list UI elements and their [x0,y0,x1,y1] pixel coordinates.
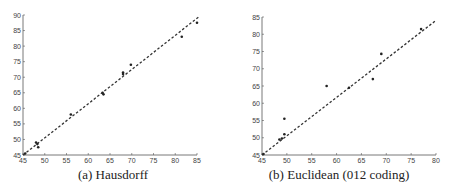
y-tick-label: 55 [252,117,260,124]
data-point [380,53,383,56]
caption-euclidean: (b) Euclidean (012 coding) [226,167,452,183]
y-tick-label: 65 [13,89,21,96]
data-point [325,85,328,88]
data-point [180,35,183,38]
y-tick-label: 50 [13,136,21,143]
y-tick-label: 70 [13,74,21,81]
scatter-plot-hausdorff: 45505560657075808590455055606570758085 [0,0,226,170]
y-tick-label: 55 [13,120,21,127]
data-point [372,78,375,81]
data-point [262,153,265,156]
data-point [122,73,125,76]
data-point [283,117,286,120]
caption-hausdorff: (a) Hausdorff [0,167,226,183]
data-point [37,146,40,149]
data-point [278,138,281,141]
x-tick-label: 85 [193,157,201,164]
data-point [420,28,423,31]
x-tick-label: 80 [432,157,440,164]
x-tick-label: 70 [382,157,390,164]
x-tick-label: 45 [19,157,27,164]
data-point [348,86,351,89]
x-tick-label: 50 [283,157,291,164]
y-tick-label: 60 [13,105,21,112]
scatter-plot-euclidean: 4550556065707580854550556065707580 [226,0,452,170]
y-tick-label: 85 [252,14,260,21]
data-point [24,152,27,155]
x-tick-label: 75 [150,157,158,164]
y-tick-label: 75 [13,58,21,65]
x-tick-label: 55 [308,157,316,164]
data-point [196,21,199,24]
data-point [70,113,73,116]
y-tick-label: 90 [13,12,21,19]
chart-euclidean: 4550556065707580854550556065707580 (b) E… [226,0,452,193]
x-tick-label: 65 [358,157,366,164]
y-tick-label: 65 [252,83,260,90]
data-point [281,137,284,140]
x-tick-label: 70 [128,157,136,164]
y-tick-label: 80 [252,31,260,38]
x-tick-label: 50 [41,157,49,164]
y-tick-label: 70 [252,65,260,72]
y-tick-label: 80 [13,43,21,50]
data-point [283,133,286,136]
x-tick-label: 45 [258,157,266,164]
y-tick-label: 75 [252,48,260,55]
x-tick-label: 60 [84,157,92,164]
x-tick-label: 75 [407,157,415,164]
fit-line [23,17,199,155]
y-tick-label: 85 [13,27,21,34]
x-tick-label: 55 [63,157,71,164]
x-tick-label: 80 [171,157,179,164]
y-tick-label: 60 [252,100,260,107]
x-tick-label: 60 [333,157,341,164]
data-point [36,143,39,146]
data-point [130,63,133,66]
chart-hausdorff: 45505560657075808590455055606570758085 (… [0,0,226,193]
data-point [102,93,105,96]
y-tick-label: 50 [252,134,260,141]
x-tick-label: 65 [106,157,114,164]
